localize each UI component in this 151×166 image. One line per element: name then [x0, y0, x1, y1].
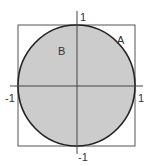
label-region-a: A — [117, 34, 125, 46]
circle-in-square-diagram: B A 1 -1 -1 1 — [0, 0, 151, 166]
label-x-neg: -1 — [5, 92, 15, 104]
label-x-pos: 1 — [138, 92, 144, 104]
label-y-neg: -1 — [78, 151, 88, 163]
label-y-pos: 1 — [80, 11, 86, 23]
label-region-b: B — [58, 45, 65, 57]
